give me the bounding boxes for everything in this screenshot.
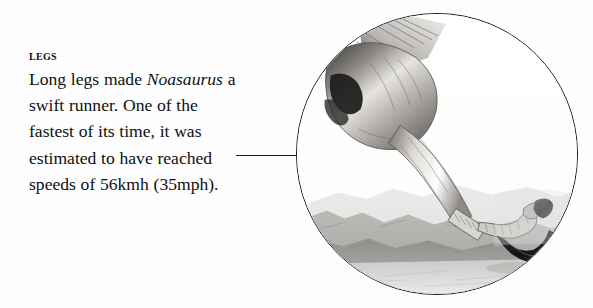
caption-body-text: Long legs made Noasaurus a swift runner.… xyxy=(29,66,244,198)
atmospheric-haze xyxy=(494,189,577,248)
ground-plain xyxy=(297,258,577,294)
caption-run-1: Long legs made xyxy=(29,69,147,89)
foot-shadow xyxy=(486,262,554,274)
leg-drawing-svg xyxy=(297,14,577,294)
genus-name: Noasaurus xyxy=(147,69,223,89)
noasaurus-leg-illustration xyxy=(296,13,578,295)
caption-block: Legs Long legs made Noasaurus a swift ru… xyxy=(29,48,244,198)
illustrated-caption-page: Legs Long legs made Noasaurus a swift ru… xyxy=(0,0,593,308)
page-title: Legs xyxy=(29,48,244,63)
leader-line xyxy=(236,155,298,156)
